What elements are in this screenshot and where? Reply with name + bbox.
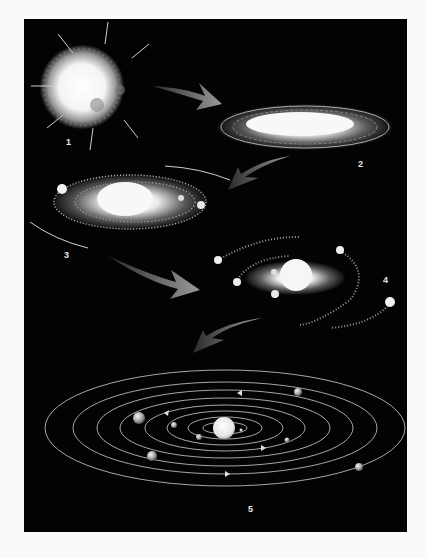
stage-1-nebula: 1 — [31, 22, 149, 150]
planet — [355, 463, 363, 471]
stage-label-2: 2 — [358, 159, 363, 169]
planet — [133, 412, 145, 424]
planet — [240, 429, 243, 432]
arrow-4-to-5 — [193, 318, 262, 353]
sun — [213, 417, 235, 439]
arrow-1-to-2 — [152, 83, 222, 110]
solar-system-formation-diagram: 1 2 3 4 — [0, 0, 427, 558]
stage-label-4: 4 — [383, 275, 388, 285]
stage-2-disk: 2 — [217, 104, 393, 169]
planet — [171, 422, 177, 428]
stage-label-5: 5 — [248, 504, 253, 514]
stage-label-3: 3 — [64, 250, 69, 260]
planet — [196, 434, 202, 440]
arrow-3-to-4 — [108, 256, 200, 299]
stage-3-spinning-disk: 3 — [30, 166, 230, 260]
planet — [147, 451, 157, 461]
arrow-2-to-3 — [228, 156, 290, 190]
planet — [285, 438, 290, 443]
planet — [294, 388, 302, 396]
stage-4-protoplanets: 4 — [214, 237, 395, 328]
stage-label-1: 1 — [66, 137, 71, 147]
